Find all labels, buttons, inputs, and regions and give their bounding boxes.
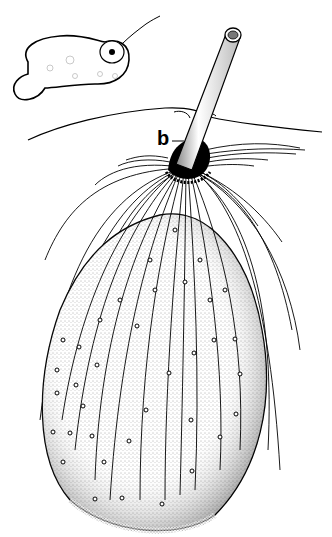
organism-drawing <box>0 0 332 537</box>
inset-cell <box>14 16 160 100</box>
cilia-tuft <box>118 144 305 166</box>
substrate-line <box>28 108 322 140</box>
illustration: b <box>0 0 332 537</box>
cell-body <box>42 214 266 531</box>
label-b: b <box>157 128 169 148</box>
